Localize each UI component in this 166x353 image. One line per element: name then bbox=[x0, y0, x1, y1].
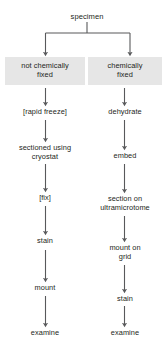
node-left-mount: mount bbox=[5, 283, 85, 292]
node-embed: embed bbox=[88, 151, 162, 160]
node-right-examine: examine bbox=[88, 328, 162, 337]
node-not-chemically-fixed: not chemically fixed bbox=[5, 57, 85, 85]
node-chemically-fixed: chemically fixed bbox=[88, 57, 162, 85]
node-sectioned-using-cryostat: sectioned using cryostat bbox=[5, 143, 85, 162]
flowchart-diagram: specimen not chemically fixed chemically… bbox=[0, 0, 166, 353]
node-rapid-freeze: [rapid freeze] bbox=[5, 107, 85, 116]
node-mount-on-grid: mount on grid bbox=[88, 243, 162, 262]
node-dehydrate: dehydrate bbox=[88, 107, 162, 116]
node-right-stain: stain bbox=[88, 294, 162, 303]
node-left-examine: examine bbox=[5, 328, 85, 337]
node-section-on-ultramicrotome: section on ultramicrotome bbox=[88, 194, 162, 213]
node-left-stain: stain bbox=[5, 236, 85, 245]
node-specimen: specimen bbox=[47, 12, 127, 21]
node-fix: [fix] bbox=[5, 193, 85, 202]
